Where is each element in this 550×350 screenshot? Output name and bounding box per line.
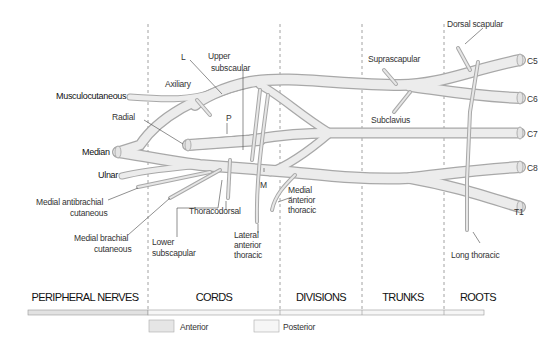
label-long-thoracic: Long thoracic bbox=[451, 250, 500, 260]
section-cords: CORDS bbox=[196, 291, 233, 303]
label-medial-anterior-thoracic-2: anterior bbox=[288, 195, 316, 205]
bar-peripheral bbox=[28, 310, 148, 315]
brachial-plexus-diagram: L Upper subscaular Axiliary Musculocutan… bbox=[0, 0, 550, 350]
cord-label-lateral: L bbox=[181, 52, 186, 62]
section-roots: ROOTS bbox=[460, 291, 496, 303]
root-label-t1: T1 bbox=[514, 207, 524, 217]
cord-label-posterior: P bbox=[226, 113, 232, 123]
label-subclavius: Subclavius bbox=[371, 115, 410, 125]
label-dorsal-scapular: Dorsal scapular bbox=[447, 19, 503, 29]
label-medial-antibrachial-1: Medial antibrachial bbox=[36, 197, 103, 207]
label-medial-brachial-1: Medial brachial bbox=[74, 233, 128, 243]
label-lateral-anterior-thoracic-2: anterior bbox=[234, 240, 262, 250]
root-label-c5: C5 bbox=[527, 56, 538, 66]
label-lateral-anterior-thoracic-3: thoracic bbox=[234, 250, 263, 260]
root-label-c6: C6 bbox=[527, 94, 538, 104]
root-label-c7: C7 bbox=[527, 129, 538, 139]
label-median: Median bbox=[82, 147, 110, 157]
section-labels: PERIPHERAL NERVES CORDS DIVISIONS TRUNKS… bbox=[31, 291, 496, 303]
label-ulnar: Ulnar bbox=[98, 170, 118, 180]
cord-label-medial: M bbox=[260, 180, 267, 190]
label-lower-subscapular-1: Lower bbox=[152, 237, 175, 247]
root-label-c8: C8 bbox=[527, 163, 538, 173]
label-medial-antibrachial-2: cutaneous bbox=[70, 208, 107, 218]
label-upper-subscapular-2: subscaular bbox=[211, 63, 250, 73]
legend-anterior-swatch bbox=[149, 320, 174, 332]
legend-posterior-label: Posterior bbox=[283, 322, 316, 332]
label-medial-brachial-2: cutaneous bbox=[94, 244, 131, 254]
label-upper-subscapular-1: Upper bbox=[208, 51, 231, 61]
legend-posterior-swatch bbox=[254, 320, 279, 332]
legend: Anterior Posterior bbox=[149, 320, 316, 332]
label-thoracodorsal: Thoracodorsal bbox=[189, 206, 241, 216]
label-medial-anterior-thoracic-1: Medial bbox=[288, 185, 312, 195]
section-trunks: TRUNKS bbox=[382, 291, 424, 303]
bar-plexus bbox=[148, 310, 484, 315]
label-suprascapular: Suprascapular bbox=[368, 54, 421, 64]
label-radial: Radial bbox=[112, 112, 135, 122]
section-divisions: DIVISIONS bbox=[296, 291, 346, 303]
posterior-division-upper bbox=[260, 85, 330, 133]
label-axiliary: Axiliary bbox=[165, 79, 192, 89]
radial-nerve bbox=[188, 140, 260, 145]
label-medial-anterior-thoracic-3: thoracic bbox=[288, 205, 317, 215]
label-lower-subscapular-2: subscapular bbox=[152, 248, 196, 258]
label-musculocutaneous: Musculocutaneous bbox=[56, 91, 127, 101]
legend-anterior-label: Anterior bbox=[180, 322, 209, 332]
section-bar bbox=[28, 310, 484, 315]
section-peripheral-nerves: PERIPHERAL NERVES bbox=[31, 291, 138, 303]
label-lateral-anterior-thoracic-1: Lateral bbox=[234, 230, 259, 240]
